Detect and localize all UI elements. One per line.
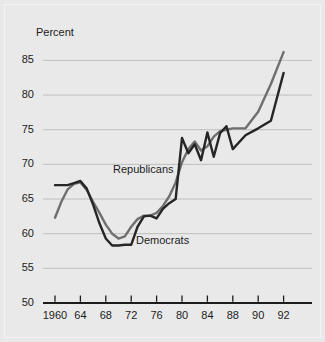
chart-figure: Percent 5055606570758085 196064687276808…	[0, 0, 325, 342]
series-line-democrats	[55, 73, 284, 246]
y-axis-tick-label: 75	[8, 123, 34, 135]
y-axis-tick-label: 80	[8, 88, 34, 100]
y-axis-tick-label: 55	[8, 261, 34, 273]
y-axis-tick-label: 65	[8, 192, 34, 204]
x-axis-ticks	[55, 296, 284, 302]
y-axis-tick-label: 70	[8, 157, 34, 169]
series-label-republicans: Republicans	[113, 163, 174, 175]
series-label-democrats: Democrats	[136, 234, 189, 246]
series-line-republicans	[55, 52, 284, 238]
y-axis-tick-label: 50	[8, 296, 34, 308]
y-axis-tick-label: 85	[8, 53, 34, 65]
data-series	[55, 52, 284, 245]
x-axis-tick-label: 92	[267, 309, 301, 321]
y-axis-tick-label: 60	[8, 227, 34, 239]
